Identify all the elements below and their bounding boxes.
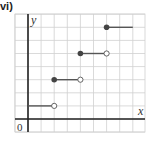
closed-endpoint-dot: [78, 51, 84, 57]
y-axis-label: y: [30, 13, 37, 27]
closed-endpoint-dot: [51, 77, 57, 83]
open-endpoint-circle: [104, 51, 109, 56]
origin-label: 0: [17, 121, 23, 133]
step-function-chart: xy0: [0, 0, 151, 142]
x-axis-label: x: [137, 104, 144, 118]
closed-endpoint-dot: [104, 25, 110, 31]
open-endpoint-circle: [52, 103, 57, 108]
open-endpoint-circle: [78, 77, 83, 82]
